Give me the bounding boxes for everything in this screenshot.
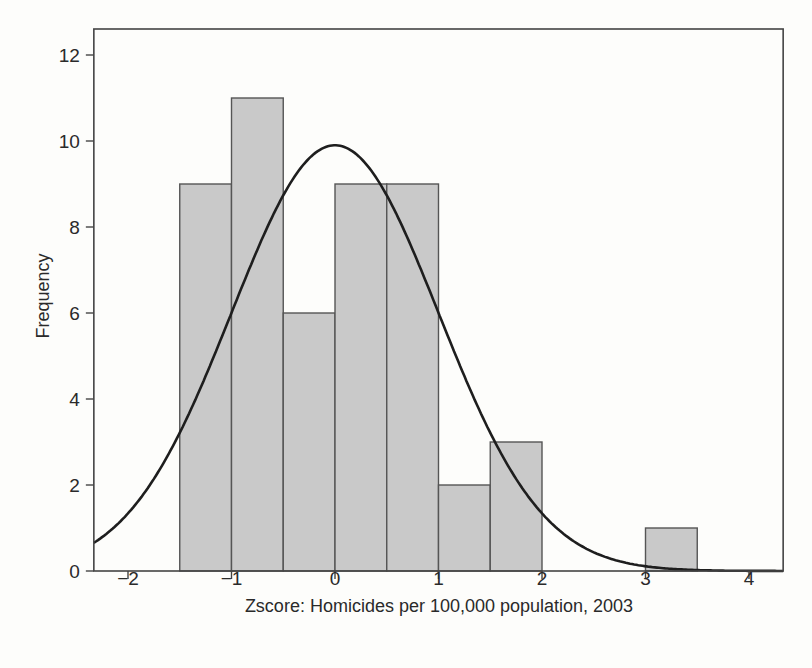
- histogram-bar: [335, 184, 387, 571]
- y-tick-label: 0: [69, 561, 80, 582]
- y-tick-label: 10: [59, 131, 80, 152]
- y-tick-label: 8: [69, 217, 80, 238]
- x-tick-label: 3: [640, 568, 651, 589]
- x-axis-title: Zscore: Homicides per 100,000 population…: [245, 596, 633, 616]
- histogram-bar: [387, 184, 439, 571]
- histogram-chart: 024681012 −2−101234 Zscore: Homicides pe…: [0, 0, 812, 668]
- histogram-bar: [283, 313, 335, 571]
- x-tick-label: 1: [433, 568, 444, 589]
- y-tick-label: 4: [69, 389, 80, 410]
- x-tick-label: 4: [744, 568, 755, 589]
- y-tick-label: 6: [69, 303, 80, 324]
- y-tick-label: 12: [59, 45, 80, 66]
- x-tick-label: 0: [330, 568, 341, 589]
- histogram-bar: [232, 98, 284, 571]
- histogram-bars: [180, 98, 698, 571]
- y-tick-label: 2: [69, 475, 80, 496]
- histogram-bar: [490, 442, 542, 571]
- histogram-bar: [646, 528, 698, 571]
- x-tick-label: −2: [117, 568, 139, 589]
- y-axis: 024681012: [59, 45, 94, 582]
- y-axis-title: Frequency: [33, 253, 53, 338]
- histogram-bar: [439, 485, 491, 571]
- x-tick-label: −1: [221, 568, 243, 589]
- x-tick-label: 2: [537, 568, 548, 589]
